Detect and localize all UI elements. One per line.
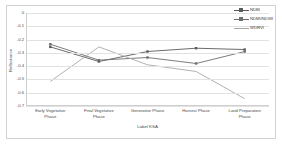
legend-swatch-icon [234, 8, 249, 13]
legend-item[interactable]: NDBI [234, 7, 273, 13]
legend-label: NDBI [250, 8, 260, 12]
legend-label: NDMI/NDWI [250, 17, 273, 21]
x-axis-line [26, 105, 269, 106]
data-point-marker [49, 46, 51, 48]
data-point-marker [195, 62, 197, 64]
y-tick-label: -0.6 [4, 91, 24, 95]
y-axis-ticks: 0-0.1-0.2-0.3-0.4-0.5-0.6-0.7 [2, 13, 24, 106]
x-axis-title: Label KSA [26, 124, 269, 129]
y-axis-line [26, 13, 27, 106]
gridline [26, 66, 269, 67]
y-tick-label: -0.1 [4, 24, 24, 28]
gridline [26, 93, 269, 94]
y-tick-label: -0.5 [4, 77, 24, 81]
legend-item[interactable]: NDMI/NDWI [234, 16, 273, 22]
legend-item[interactable]: WDRVI [234, 25, 273, 31]
y-tick-label: 0 [4, 11, 24, 15]
legend-swatch-icon [234, 17, 249, 22]
chart-container: Reflectance 0-0.1-0.2-0.3-0.4-0.5-0.6-0.… [0, 0, 282, 145]
gridline [26, 106, 269, 107]
gridline [26, 40, 269, 41]
data-point-marker [98, 59, 100, 61]
legend-swatch-icon [234, 26, 249, 31]
y-tick-label: -0.4 [4, 64, 24, 68]
y-tick-label: -0.2 [4, 37, 24, 41]
series-line [50, 47, 244, 99]
legend-label: WDRVI [250, 26, 264, 30]
y-tick-label: -0.3 [4, 51, 24, 55]
gridline [26, 13, 269, 14]
data-point-marker [195, 47, 197, 49]
gridline [26, 53, 269, 54]
y-tick-label: -0.7 [4, 104, 24, 108]
chart-legend: NDBINDMI/NDWIWDRVI [234, 7, 273, 31]
data-point-marker [146, 56, 148, 58]
gridline [26, 79, 269, 80]
plot-area [26, 13, 269, 106]
data-point-marker [49, 43, 51, 45]
gridline [26, 26, 269, 27]
